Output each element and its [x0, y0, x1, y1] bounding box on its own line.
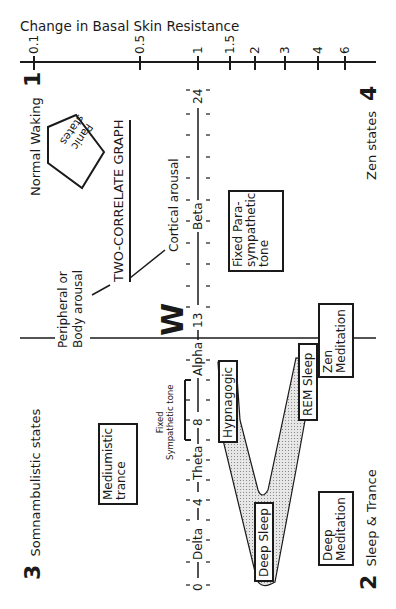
deep-meditation-box: Deep Meditation: [318, 491, 354, 566]
quadrant-4-label: Zen states 4: [358, 86, 380, 180]
cortical-arousal-label: Cortical arousal: [168, 158, 180, 252]
eeg-label: 24: [192, 89, 204, 104]
peripheral-arousal-label: Peripheral or Body arousal: [56, 270, 86, 348]
skin-tick-label: 4: [312, 46, 324, 54]
graph-title: TWO-CORRELATE GRAPH: [112, 120, 125, 282]
sympathetic-bracket: [185, 380, 191, 440]
eeg-label: 4: [192, 498, 204, 506]
quadrant-3-label: 3 Somnambulistic states: [22, 409, 44, 580]
quadrant-1-number: 1: [20, 72, 45, 87]
hypnagogic-box: Hypnagogic: [218, 360, 238, 443]
zen-meditation-box: Zen Meditation: [318, 303, 354, 378]
eeg-label: Theta: [192, 446, 204, 480]
eeg-label: 0: [192, 583, 204, 591]
rem-sleep-box: REM Sleep: [298, 343, 318, 421]
fixed-sympathetic-label: Fixed Sympathetic tone: [155, 385, 175, 460]
two-correlate-diagram: Change in Basal Skin Resistance 0.1 0.5 …: [0, 0, 396, 609]
skin-tick-label: 1.5: [224, 35, 236, 54]
skin-tick-label: 6: [339, 46, 351, 54]
skin-tick-label: 3: [279, 46, 291, 54]
eeg-label: Alpha: [192, 342, 204, 376]
chart-title: Change in Basal Skin Resistance: [20, 20, 239, 34]
eeg-label: Delta: [192, 528, 204, 560]
eeg-label: 8: [192, 418, 204, 426]
quadrant-1-label: Normal Waking 1: [22, 72, 44, 196]
w-mark: W: [158, 303, 188, 336]
skin-tick-label: 0.1: [28, 35, 40, 54]
cortical-leader: [130, 250, 165, 278]
fixed-parasympathetic-box: Fixed Para- sympathetic tone: [228, 190, 284, 272]
skin-tick-label: 2: [249, 46, 261, 54]
peripheral-leader: [92, 285, 110, 295]
eeg-label: Beta: [192, 202, 204, 230]
eeg-label: 13: [192, 313, 204, 328]
quadrant-4-number: 4: [356, 86, 381, 101]
deep-sleep-box: Deep Sleep: [254, 502, 274, 582]
quadrant-3-number: 3: [20, 565, 45, 580]
quadrant-2-label: 2 Sleep & Trance: [358, 469, 380, 590]
mediumistic-trance-box: Mediumistic trance: [98, 423, 138, 505]
skin-tick-label: 1: [192, 46, 204, 54]
quadrant-2-number: 2: [356, 575, 381, 590]
skin-tick-label: 0.5: [134, 35, 146, 54]
